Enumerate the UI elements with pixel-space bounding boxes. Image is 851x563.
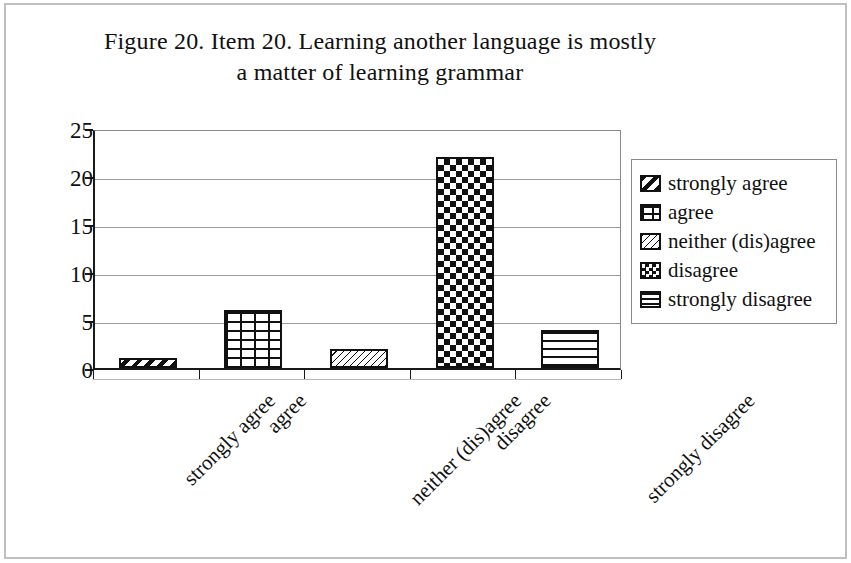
legend-item[interactable]: agree (640, 198, 828, 227)
chart-title-line-1: Figure 20. Item 20. Learning another lan… (60, 26, 700, 57)
legend-swatch-icon (640, 291, 661, 308)
bar-agree[interactable] (224, 310, 282, 368)
legend-item-label: neither (dis)agree (668, 231, 816, 252)
chart-legend: strongly agreeagreeneither (dis)agreedis… (631, 159, 837, 324)
legend-swatch-icon (640, 233, 661, 250)
figure-container: Figure 20. Item 20. Learning another lan… (0, 0, 851, 563)
x-axis-label-strongly-agree: strongly agree (180, 390, 279, 489)
x-axis-tick (410, 370, 411, 379)
y-axis-tick-label: 20 (47, 167, 93, 190)
legend-swatch-icon (640, 262, 661, 279)
x-axis-label-strongly-disagree: strongly disagree (642, 390, 759, 507)
gridline (95, 323, 620, 324)
x-axis-tick (304, 370, 305, 379)
y-axis-tick-label: 10 (47, 263, 93, 286)
x-axis-tick (621, 370, 622, 379)
bar-disagree[interactable] (436, 157, 494, 368)
gridline (95, 227, 620, 228)
y-axis-tick-label: 15 (47, 215, 93, 238)
plot-area (93, 130, 621, 370)
x-axis-tick (515, 370, 516, 379)
gridline (95, 275, 620, 276)
legend-item-label: strongly agree (668, 173, 788, 194)
chart-title: Figure 20. Item 20. Learning another lan… (60, 26, 700, 88)
x-axis-tick (93, 370, 94, 379)
x-axis-lower-rule (93, 379, 621, 380)
y-axis: 0510152025 (35, 130, 93, 370)
y-axis-tick-label: 25 (47, 119, 93, 142)
legend-swatch-icon (640, 204, 661, 221)
legend-item[interactable]: strongly agree (640, 169, 828, 198)
legend-swatch-icon (640, 175, 661, 192)
legend-item[interactable]: neither (dis)agree (640, 227, 828, 256)
x-axis-tick (199, 370, 200, 379)
gridline (95, 179, 620, 180)
legend-item-label: disagree (668, 260, 738, 281)
legend-item[interactable]: strongly disagree (640, 285, 828, 314)
y-axis-tick-label: 5 (47, 311, 93, 334)
y-axis-tick-label: 0 (47, 359, 93, 382)
legend-item[interactable]: disagree (640, 256, 828, 285)
legend-item-label: agree (668, 202, 713, 223)
legend-item-label: strongly disagree (668, 289, 812, 310)
bar-strongly-disagree[interactable] (541, 330, 599, 368)
bar-neither-dis-agree[interactable] (330, 349, 388, 368)
chart-title-line-2: a matter of learning grammar (60, 57, 700, 88)
bar-strongly-agree[interactable] (119, 358, 177, 368)
